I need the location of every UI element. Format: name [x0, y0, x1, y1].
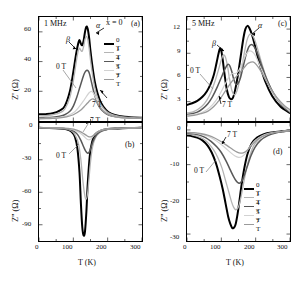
panel-d-ytick-10: -10	[170, 161, 179, 168]
panel-b-ylabel: Z'' (Ω)	[10, 200, 20, 222]
panel-d-xtick-300: 300	[277, 244, 288, 251]
panel-b-ytick-60: -60	[22, 188, 31, 195]
panel-a-arrows	[38, 16, 143, 122]
legend-swatch-5t-d	[244, 215, 254, 216]
panel-c-ytick-3: 3	[177, 96, 181, 103]
panel-d-ytick-20: -20	[170, 198, 179, 205]
panel-b-ytick-90: -90	[22, 221, 31, 228]
legend-swatch-0t-d	[244, 188, 254, 190]
panel-d-xtick-200: 200	[244, 244, 255, 251]
panel-d-ytick-30: -30	[170, 234, 179, 241]
panel-c-ytick-12: 12	[173, 24, 180, 31]
panel-d-xtick-0: 0	[183, 244, 187, 251]
panel-a-ytick-20: 20	[24, 87, 31, 94]
panel-d-legend: 0 T 1 T 4 T 5 T 7 T	[244, 184, 263, 229]
legend-swatch-4t-d	[244, 206, 254, 207]
panel-b-xlabel: T (K)	[78, 259, 96, 267]
legend-swatch-7t-d	[244, 224, 254, 225]
panel-a-legend: 0 T 1 T 4 T 5 T 7 T	[104, 39, 123, 84]
panel-b-arrows	[38, 122, 143, 242]
panel-d-ylabel: Z'' (Ω)	[159, 200, 169, 222]
panel-b-xtick-100: 100	[62, 244, 73, 251]
legend-swatch-1t	[104, 52, 114, 53]
legend-item-7t: 7 T	[104, 75, 123, 84]
legend-swatch-4t	[104, 61, 114, 62]
panel-c-ylabel: Z' (Ω)	[159, 79, 169, 100]
legend-swatch-7t	[104, 79, 114, 80]
panel-b-xtick-300: 300	[130, 244, 141, 251]
panel-c-ytick-6: 6	[177, 72, 181, 79]
panel-d-xtick-100: 100	[210, 244, 221, 251]
legend-label-7t-d: 7 T	[256, 217, 263, 233]
panel-b-ytick-0: 0	[29, 122, 33, 129]
legend-item-7t-d: 7 T	[244, 220, 263, 229]
panel-d-ytick-0: 0	[177, 125, 181, 132]
panel-a-ytick-40: 40	[24, 56, 31, 63]
panel-b-xtick-0: 0	[35, 244, 39, 251]
legend-swatch-0t	[104, 43, 114, 45]
legend-swatch-1t-d	[244, 197, 254, 198]
panel-d-arrows	[186, 122, 291, 242]
panel-b-ytick-30: -30	[22, 155, 31, 162]
legend-swatch-5t	[104, 70, 114, 71]
panel-d-xlabel: T (K)	[226, 259, 244, 267]
legend-label-7t: 7 T	[116, 72, 123, 88]
panel-c-arrows	[186, 16, 291, 122]
panel-c-ytick-9: 9	[177, 48, 181, 55]
figure-root: Z' (Ω) 60 40 20 1 MHz (a) x = 0 β α 0 T …	[0, 0, 298, 308]
panel-a-ytick-60: 60	[24, 26, 31, 33]
panel-a-ylabel: Z' (Ω)	[10, 79, 20, 100]
panel-b-xtick-200: 200	[96, 244, 107, 251]
